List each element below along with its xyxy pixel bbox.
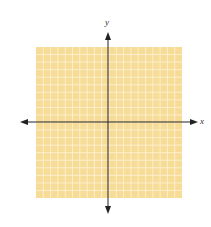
x-axis-right-arrow-icon [190,119,198,125]
x-axis-left-arrow-icon [20,119,28,125]
grid-svg [0,0,211,227]
y-axis-label: y [105,17,109,27]
y-axis-down-arrow-icon [105,206,111,214]
x-axis-label: x [200,116,204,126]
y-axis-up-arrow-icon [105,32,111,40]
